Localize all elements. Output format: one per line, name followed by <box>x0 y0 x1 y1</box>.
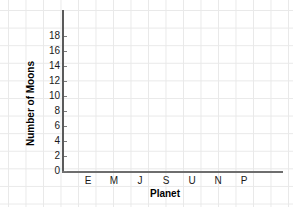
x-axis-line <box>62 171 283 173</box>
y-axis-tick <box>64 141 67 142</box>
y-axis-tick <box>64 126 67 127</box>
y-axis-tick <box>64 111 67 112</box>
y-axis-tick <box>64 156 67 157</box>
y-axis-title: Number of Moons <box>25 44 36 164</box>
y-axis-tick <box>64 66 67 67</box>
x-tick-label: N <box>208 175 228 186</box>
x-tick-label: J <box>130 175 150 186</box>
chart-canvas: 18 16 14 12 10 8 6 4 2 0 E M J S U N P P… <box>0 0 293 207</box>
x-tick-label: E <box>78 175 98 186</box>
x-axis-title: Planet <box>95 188 235 199</box>
x-tick-label: M <box>104 175 124 186</box>
y-axis-tick <box>64 36 67 37</box>
x-tick-label: U <box>182 175 202 186</box>
y-tick-label: 18 <box>20 31 60 41</box>
y-axis-tick <box>64 81 67 82</box>
x-tick-label: P <box>234 175 254 186</box>
x-tick-label: S <box>156 175 176 186</box>
plot-area: 18 16 14 12 10 8 6 4 2 0 E M J S U N P P… <box>0 0 293 207</box>
y-tick-label: 0 <box>20 166 60 176</box>
y-axis-tick <box>64 171 67 172</box>
y-axis-line <box>62 10 64 173</box>
y-axis-tick <box>64 96 67 97</box>
y-axis-tick <box>64 51 67 52</box>
